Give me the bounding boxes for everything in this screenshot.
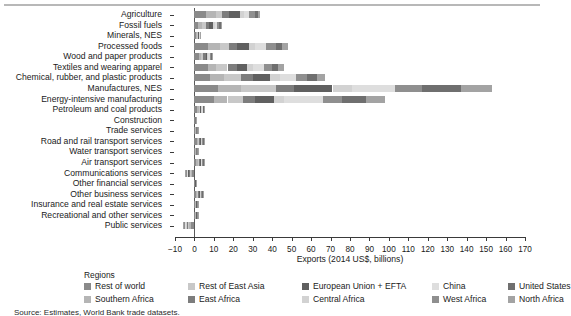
bar-segment[interactable] [191,170,193,177]
bar-row[interactable] [175,212,525,219]
bar-segment[interactable] [216,64,228,71]
bar-row[interactable] [175,170,525,177]
bar-segment[interactable] [280,74,296,81]
bar-segment[interactable] [214,96,228,103]
bar-segment[interactable] [192,170,194,177]
legend-item[interactable]: Rest of world [84,281,145,291]
bar-segment[interactable] [204,159,205,166]
bar-segment[interactable] [237,43,249,50]
bar-segment[interactable] [276,85,294,92]
bar-segment[interactable] [204,138,205,145]
bar-segment[interactable] [198,212,199,219]
bar-segment[interactable] [366,96,385,103]
bar-row[interactable] [175,22,525,29]
bar-segment[interactable] [198,127,199,134]
bar-segment[interactable] [296,74,308,81]
bar-segment[interactable] [221,22,222,29]
bar-segment[interactable] [270,74,280,81]
bar-row[interactable] [175,159,525,166]
bar-segment[interactable] [284,96,323,103]
bar-segment[interactable] [258,11,260,18]
bar-segment[interactable] [422,85,461,92]
bar-segment[interactable] [196,117,197,124]
bar-segment[interactable] [222,11,230,18]
legend-item[interactable]: United States [508,281,571,291]
bar-segment[interactable] [189,222,191,229]
bar-segment[interactable] [185,170,186,177]
bar-segment[interactable] [228,96,244,103]
bar-segment[interactable] [243,96,255,103]
bar-segment[interactable] [229,11,240,18]
bar-segment[interactable] [185,222,186,229]
bar-segment[interactable] [212,53,213,60]
bar-segment[interactable] [224,74,242,81]
bar-row[interactable] [175,106,525,113]
bar-segment[interactable] [253,64,265,71]
bar-segment[interactable] [266,43,276,50]
bar-segment[interactable] [208,64,216,71]
bar-segment[interactable] [218,85,241,92]
bar-row[interactable] [175,96,525,103]
bar-segment[interactable] [395,85,422,92]
bar-segment[interactable] [208,43,220,50]
bar-segment[interactable] [189,170,190,177]
bar-segment[interactable] [183,222,184,229]
bar-segment[interactable] [200,32,201,39]
bar-segment[interactable] [342,96,365,103]
bar-segment[interactable] [203,191,204,198]
bar-row[interactable] [175,180,525,187]
legend-item[interactable]: North Africa [508,294,564,304]
bar-segment[interactable] [204,106,205,113]
bar-row[interactable] [175,138,525,145]
bar-segment[interactable] [352,85,395,92]
bar-segment[interactable] [188,222,189,229]
bar-row[interactable] [175,32,525,39]
bar-row[interactable] [175,117,525,124]
bar-segment[interactable] [187,222,188,229]
bar-segment[interactable] [194,96,213,103]
bar-row[interactable] [175,191,525,198]
bar-row[interactable] [175,222,525,229]
bar-segment[interactable] [282,43,288,50]
bar-segment[interactable] [206,11,216,18]
bar-segment[interactable] [194,85,217,92]
bar-segment[interactable] [274,96,284,103]
bar-row[interactable] [175,43,525,50]
bar-segment[interactable] [210,74,224,81]
bar-row[interactable] [175,74,525,81]
legend-item[interactable]: East Africa [188,294,240,304]
bar-segment[interactable] [241,85,276,92]
bar-segment[interactable] [278,64,284,71]
bar-segment[interactable] [228,64,238,71]
bar-segment[interactable] [198,148,199,155]
bar-row[interactable] [175,148,525,155]
bar-row[interactable] [175,85,525,92]
bar-segment[interactable] [323,96,342,103]
bar-segment[interactable] [241,74,253,81]
bar-segment[interactable] [194,43,208,50]
bar-segment[interactable] [333,85,352,92]
legend-item[interactable]: Central Africa [302,294,365,304]
bar-segment[interactable] [198,201,199,208]
bar-segment[interactable] [220,43,230,50]
legend-item[interactable]: West Africa [432,294,486,304]
bar-segment[interactable] [255,96,274,103]
bar-segment[interactable] [253,74,271,81]
bar-segment[interactable] [461,85,492,92]
bar-segment[interactable] [294,85,333,92]
bar-segment[interactable] [237,64,247,71]
bar-segment[interactable] [191,222,194,229]
legend-item[interactable]: Rest of East Asia [188,281,264,291]
bar-row[interactable] [175,11,525,18]
bar-row[interactable] [175,127,525,134]
bar-row[interactable] [175,201,525,208]
bar-segment[interactable] [194,11,206,18]
bar-segment[interactable] [264,64,272,71]
bar-segment[interactable] [194,74,210,81]
bar-segment[interactable] [255,43,267,50]
bar-segment[interactable] [307,74,317,81]
bar-segment[interactable] [317,74,325,81]
bar-segment[interactable] [194,64,208,71]
legend-item[interactable]: China [432,281,465,291]
legend-item[interactable]: European Union + EFTA [302,281,406,291]
